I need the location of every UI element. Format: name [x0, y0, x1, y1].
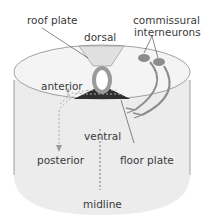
label-commissural: commissural: [133, 15, 200, 26]
label-interneurons: interneurons: [134, 27, 201, 38]
label-ventral: ventral: [84, 131, 121, 142]
label-dorsal: dorsal: [84, 32, 116, 43]
label-floor-plate: floor plate: [120, 155, 174, 166]
label-anterior: anterior: [41, 81, 83, 92]
label-roof-plate: roof plate: [27, 15, 78, 26]
label-midline: midline: [83, 199, 122, 210]
neural-tube-diagram: roof plate dorsal commissural interneuro…: [0, 0, 204, 221]
label-posterior: posterior: [37, 155, 84, 166]
